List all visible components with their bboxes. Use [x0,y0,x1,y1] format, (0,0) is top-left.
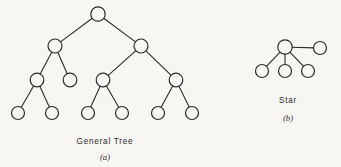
figure-container: General Tree(a) Star(b) [0,0,341,167]
panel-general-tree: General Tree(a) [12,7,199,162]
graph-node[interactable] [116,107,129,120]
graph-node[interactable] [46,107,59,120]
tree-edge [266,52,280,67]
panel-caption-label: (b) [283,113,293,123]
panel-caption-title: Star [279,96,297,105]
graph-figure-canvas: General Tree(a) Star(b) [0,0,341,167]
tree-edge [290,52,304,67]
graph-node[interactable] [314,42,327,55]
tree-edge [103,18,135,42]
graph-node[interactable] [63,73,77,87]
graph-node[interactable] [82,107,95,120]
graph-node[interactable] [278,40,292,54]
graph-node[interactable] [186,107,199,120]
graph-node[interactable] [279,65,292,78]
graph-node[interactable] [91,7,105,21]
node-group-general-tree [12,7,199,120]
tree-edge [161,86,173,108]
tree-edge [40,86,50,108]
graph-node[interactable] [169,73,183,87]
tree-edge [179,86,190,108]
panel-caption-label: (a) [100,152,110,162]
tree-edge [21,85,34,107]
tree-edge [60,18,92,42]
edge-group-general-tree [21,18,189,108]
graph-node[interactable] [152,107,165,120]
tree-edge [292,47,314,48]
tree-edge [108,50,136,75]
panel-star: Star(b) [256,40,327,123]
graph-node[interactable] [302,65,315,78]
graph-node[interactable] [96,73,110,87]
graph-node[interactable] [30,73,44,87]
graph-node[interactable] [134,39,148,53]
tree-edge [40,52,52,75]
tree-edge [90,86,100,108]
graph-node[interactable] [256,65,269,78]
node-group-star [256,40,327,78]
panel-caption-title: General Tree [77,137,134,146]
graph-node[interactable] [48,39,62,53]
graph-node[interactable] [12,107,25,120]
tree-edge [58,52,68,74]
tree-edge [146,51,172,76]
tree-edge [106,85,119,107]
